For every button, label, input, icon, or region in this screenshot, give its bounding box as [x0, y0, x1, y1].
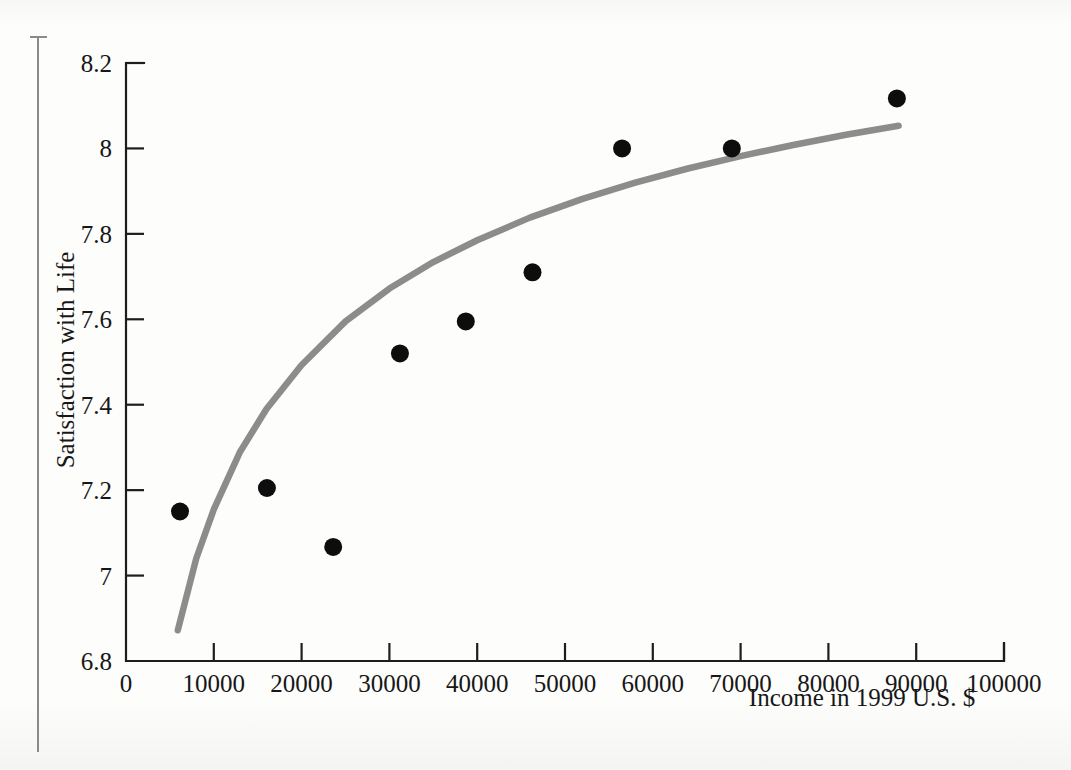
- y-axis-tick-labels: 6.877.27.47.67.888.2: [81, 50, 113, 675]
- data-point: [613, 139, 631, 157]
- data-point: [171, 503, 189, 521]
- x-tick-label: 30000: [358, 670, 421, 697]
- x-tick-label: 100000: [967, 670, 1042, 697]
- data-point: [391, 344, 409, 362]
- data-point: [258, 479, 276, 497]
- axis-frame: [126, 63, 1004, 661]
- chart-canvas: 6.877.27.47.67.888.2 0100002000030000400…: [0, 0, 1071, 770]
- x-tick-label: 0: [120, 670, 133, 697]
- x-axis-ticks: [214, 643, 1004, 661]
- x-tick-label: 40000: [446, 670, 509, 697]
- data-point: [723, 139, 741, 157]
- x-tick-label: 20000: [270, 670, 333, 697]
- y-tick-label: 7: [100, 563, 113, 590]
- y-axis-title: Satisfaction with Life: [52, 252, 79, 469]
- y-tick-label: 6.8: [81, 648, 112, 675]
- regression-curve: [178, 126, 899, 630]
- y-tick-label: 8: [100, 135, 113, 162]
- figure-page: 6.877.27.47.67.888.2 0100002000030000400…: [0, 0, 1071, 770]
- data-points-group: [171, 89, 906, 556]
- data-point: [888, 89, 906, 107]
- data-point: [324, 538, 342, 556]
- y-tick-label: 7.6: [81, 306, 112, 333]
- y-tick-label: 8.2: [81, 50, 112, 77]
- y-tick-label: 7.4: [81, 392, 113, 419]
- y-axis-ticks: [126, 63, 144, 576]
- y-tick-label: 7.8: [81, 221, 112, 248]
- axes-group: 6.877.27.47.67.888.2 0100002000030000400…: [81, 50, 1042, 697]
- x-tick-label: 10000: [183, 670, 246, 697]
- y-tick-label: 7.2: [81, 477, 112, 504]
- scatter-plot: 6.877.27.47.67.888.2 0100002000030000400…: [0, 0, 1071, 770]
- x-axis-title: Income in 1999 U.S. $: [749, 684, 975, 711]
- data-point: [457, 312, 475, 330]
- x-tick-label: 60000: [622, 670, 685, 697]
- data-point: [524, 263, 542, 281]
- x-tick-label: 50000: [534, 670, 597, 697]
